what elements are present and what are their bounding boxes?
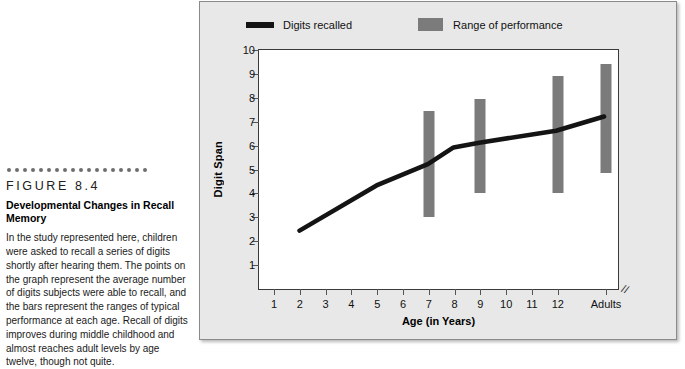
- y-tick-label: 6: [249, 140, 255, 152]
- caption-dot: [7, 168, 11, 172]
- x-tick-label: 4: [348, 298, 354, 310]
- x-tick-mark: [351, 289, 352, 295]
- x-tick-label: 7: [426, 298, 432, 310]
- caption-dot: [39, 168, 43, 172]
- decorative-dot-rule: [6, 168, 191, 172]
- caption-dot: [15, 168, 19, 172]
- caption-dot: [79, 168, 83, 172]
- caption-dot: [127, 168, 131, 172]
- y-tick-label: 1: [249, 259, 255, 271]
- y-tick-label: 2: [249, 235, 255, 247]
- x-tick-mark: [558, 289, 559, 295]
- legend-label: Digits recalled: [283, 19, 352, 31]
- x-tick-label: 8: [452, 298, 458, 310]
- legend-entry-1: Digits recalled: [246, 19, 352, 31]
- x-tick-mark: [480, 289, 481, 295]
- digits-recalled-line: [259, 50, 618, 290]
- x-tick-mark: [532, 289, 533, 295]
- x-axis-title: Age (in Years): [258, 315, 619, 327]
- caption-dot: [71, 168, 75, 172]
- chart-panel: Digits recalledRange of performance Digi…: [199, 1, 677, 340]
- figure-title: Developmental Changes in Recall Memory: [6, 199, 191, 225]
- x-tick-mark: [377, 289, 378, 295]
- caption-dot: [87, 168, 91, 172]
- y-tick-label: 9: [249, 68, 255, 80]
- y-axis-title: Digit Span: [212, 49, 224, 290]
- x-tick-label: 1: [271, 298, 277, 310]
- x-tick-label: 10: [500, 298, 512, 310]
- caption-dot: [23, 168, 27, 172]
- caption-dot: [119, 168, 123, 172]
- y-tick-label: 7: [249, 116, 255, 128]
- x-tick-label: 11: [526, 298, 537, 310]
- caption-dot: [103, 168, 107, 172]
- caption-dot: [135, 168, 139, 172]
- x-tick-mark: [403, 289, 404, 295]
- x-tick-mark: [300, 289, 301, 295]
- y-tick-label: 8: [249, 92, 255, 104]
- x-tick-mark: [429, 289, 430, 295]
- caption-dot: [63, 168, 67, 172]
- legend-box-swatch-icon: [418, 18, 443, 31]
- figure-number-label: FIGURE 8.4: [6, 179, 191, 193]
- axis-break-icon: //: [620, 283, 630, 295]
- y-tick-label: 4: [249, 187, 255, 199]
- chart-legend: Digits recalledRange of performance: [200, 18, 676, 31]
- caption-dot: [111, 168, 115, 172]
- y-tick-label: 5: [249, 164, 255, 176]
- figure-caption: FIGURE 8.4 Developmental Changes in Reca…: [6, 168, 191, 369]
- x-tick-mark: [455, 289, 456, 295]
- x-tick-mark: [274, 289, 275, 295]
- plot-inner: 12345678910 123456789101112Adults//: [259, 50, 618, 289]
- y-tick-label: 3: [249, 211, 255, 223]
- x-tick-label: 6: [400, 298, 406, 310]
- caption-dot: [55, 168, 59, 172]
- caption-dot: [143, 168, 147, 172]
- x-tick-label: Adults: [591, 298, 622, 310]
- x-tick-label: 12: [552, 298, 564, 310]
- caption-dot: [31, 168, 35, 172]
- figure-description: In the study represented here, children …: [6, 231, 191, 369]
- x-tick-label: 5: [374, 298, 380, 310]
- x-tick-label: 2: [297, 298, 303, 310]
- x-tick-label: 9: [477, 298, 483, 310]
- legend-entry-2: Range of performance: [418, 18, 562, 31]
- x-tick-mark: [326, 289, 327, 295]
- legend-label: Range of performance: [453, 19, 562, 31]
- plot-area: 12345678910 123456789101112Adults//: [258, 49, 619, 290]
- caption-dot: [95, 168, 99, 172]
- y-axis-title-text: Digit Span: [212, 141, 224, 197]
- caption-dot: [47, 168, 51, 172]
- legend-line-swatch-icon: [246, 22, 274, 28]
- line-polyline: [300, 117, 604, 231]
- x-tick-mark: [506, 289, 507, 295]
- y-tick-label: 10: [243, 44, 255, 56]
- x-tick-label: 3: [323, 298, 329, 310]
- x-tick-mark: [606, 289, 607, 295]
